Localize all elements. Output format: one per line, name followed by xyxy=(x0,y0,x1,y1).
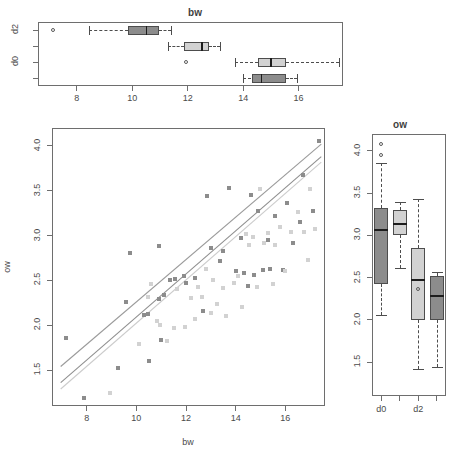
scatter-point xyxy=(249,193,253,197)
main-y-tick xyxy=(47,190,52,191)
main-x-tick xyxy=(136,406,137,411)
scatter-point xyxy=(116,366,120,370)
scatter-point xyxy=(157,244,161,248)
scatter-point xyxy=(201,309,205,313)
bw-whisker-cap-high xyxy=(339,58,340,67)
bw-whisker-cap-low xyxy=(89,26,90,35)
scatter-point xyxy=(155,319,159,323)
ow-whisker-cap-low xyxy=(432,367,443,368)
scatter-point xyxy=(64,336,68,340)
ow-outlier xyxy=(416,287,420,291)
scatter-point xyxy=(221,249,225,253)
top-x-tick-label: 12 xyxy=(174,93,202,103)
main-x-tick-label: 16 xyxy=(271,413,299,423)
right-y-tick xyxy=(367,193,372,194)
line-upper-dark xyxy=(61,144,322,366)
right-y-tick xyxy=(367,235,372,236)
ow-median xyxy=(411,279,425,281)
main-x-tick xyxy=(86,406,87,411)
ow-whisker-cap-low xyxy=(395,268,406,269)
bw-whisker-high xyxy=(286,78,297,79)
scatter-point xyxy=(302,230,306,234)
main-x-axis-label: bw xyxy=(143,437,233,447)
main-y-tick-label: 4.0 xyxy=(32,128,42,162)
bw-whisker-low xyxy=(243,78,251,79)
main-y-tick-label: 2.0 xyxy=(32,307,42,341)
top-x-tick xyxy=(243,86,244,91)
right-y-tick xyxy=(367,362,372,363)
main-y-tick xyxy=(47,280,52,281)
scatter-point xyxy=(196,285,200,289)
bw-whisker-cap-high xyxy=(220,42,221,51)
scatter-point xyxy=(261,268,265,272)
main-x-tick-label: 14 xyxy=(222,413,250,423)
ow-whisker-low xyxy=(418,320,419,369)
bw-whisker-high xyxy=(159,30,171,31)
ow-whisker-low xyxy=(381,284,382,314)
bw-box-4 xyxy=(252,74,287,83)
scatter-point xyxy=(283,269,287,273)
scatter-point xyxy=(184,281,188,285)
ow-whisker-cap-high xyxy=(413,199,424,200)
main-x-tick-label: 12 xyxy=(172,413,200,423)
scatter-point xyxy=(298,220,302,224)
scatter-point xyxy=(165,339,169,343)
scatter-point xyxy=(289,230,293,234)
ow-whisker-cap-high xyxy=(432,272,443,273)
scatter-point xyxy=(149,282,153,286)
main-y-tick-label: 3.5 xyxy=(32,173,42,207)
top-y-tick xyxy=(33,30,38,31)
bw-median xyxy=(261,74,263,83)
main-y-tick xyxy=(47,325,52,326)
top-x-tick-label: 10 xyxy=(118,93,146,103)
scatter-point xyxy=(262,241,266,245)
scatter-point xyxy=(218,259,222,263)
scatter-point xyxy=(240,305,244,309)
scatter-point xyxy=(301,173,305,177)
bw-median xyxy=(270,58,272,67)
ow-whisker-low xyxy=(437,320,438,367)
scatter-point xyxy=(209,311,213,315)
right-boxplot-panel: ow d0d2 1.52.02.53.03.54.0 xyxy=(340,112,452,456)
scatter-point xyxy=(306,258,310,262)
line-lower-light xyxy=(61,162,322,389)
scatter-point xyxy=(108,391,112,395)
bw-whisker-cap-low xyxy=(243,74,244,83)
main-x-tick xyxy=(235,406,236,411)
main-y-tick-label: 2.5 xyxy=(32,262,42,296)
right-y-tick-label: 1.5 xyxy=(352,344,362,378)
right-x-tick xyxy=(418,396,419,401)
ow-whisker-cap-low xyxy=(376,315,387,316)
right-x-tick-label: d2 xyxy=(404,404,432,414)
bw-whisker-low xyxy=(235,62,259,63)
bw-whisker-low xyxy=(89,30,128,31)
scatter-point xyxy=(146,312,150,316)
right-x-tick xyxy=(399,396,400,401)
main-y-tick xyxy=(47,235,52,236)
scatter-point xyxy=(273,214,277,218)
scatter-point xyxy=(247,243,251,247)
top-y-tick xyxy=(33,62,38,63)
ow-box-3 xyxy=(411,248,425,320)
scatter-point xyxy=(311,209,315,213)
bw-whisker-cap-high xyxy=(297,74,298,83)
top-x-tick xyxy=(132,86,133,91)
bw-whisker-high xyxy=(286,62,339,63)
top-x-tick xyxy=(298,86,299,91)
scatter-point xyxy=(204,267,208,271)
main-scatter-panel: 810121416 1.52.02.53.03.54.0 bw ow xyxy=(0,112,340,456)
bw-median xyxy=(146,26,148,35)
scatter-point xyxy=(224,314,228,318)
top-y-tick xyxy=(33,46,38,47)
regression-lines xyxy=(0,112,340,456)
bw-box-1 xyxy=(128,26,159,35)
ow-whisker-cap-low xyxy=(413,369,424,370)
bw-whisker-cap-low xyxy=(168,42,169,51)
scatter-point xyxy=(273,243,277,247)
ow-whisker-high xyxy=(400,202,401,210)
bw-whisker-cap-high xyxy=(171,26,172,35)
ow-median xyxy=(393,223,407,225)
scatter-point xyxy=(137,342,141,346)
right-y-tick-label: 3.0 xyxy=(352,217,362,251)
top-y-tick-label: d2 xyxy=(10,14,20,44)
